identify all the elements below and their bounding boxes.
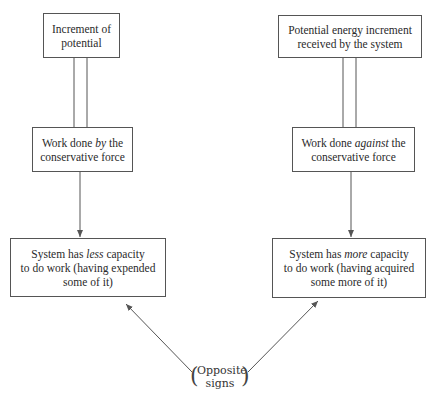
work-done-by-box: Work done by the conservative force [32, 127, 133, 172]
box-text-line: received by the system [297, 38, 402, 50]
close-paren: ) [241, 362, 250, 390]
box-text: System has [31, 248, 86, 260]
connectors-layer [0, 0, 432, 397]
box-text: Work done [42, 137, 95, 149]
opposite-signs-label: Opposite signs [197, 364, 243, 390]
box-text: the [106, 137, 123, 149]
emphasis-text: more [344, 248, 367, 260]
emphasis-text: less [86, 248, 103, 260]
box-text-line: conservative force [40, 151, 125, 163]
box-text-line: some more of it) [311, 276, 387, 288]
emphasis-text: by [95, 137, 106, 149]
box-text: capacity [367, 248, 408, 260]
more-capacity-box: System has more capacity to do work (hav… [272, 238, 426, 298]
increment-of-potential-box: Increment of potential [43, 13, 120, 58]
box-text-line: Increment of [52, 23, 111, 35]
label-line: signs [206, 377, 235, 390]
box-text-line: Potential energy increment [288, 24, 412, 36]
emphasis-text: against [355, 137, 389, 149]
right-diagonal-arrow [248, 301, 318, 372]
work-done-against-box: Work done against the conservative force [292, 127, 415, 172]
less-capacity-box: System has less capacity to do work (hav… [10, 238, 166, 297]
box-text-line: some of it) [63, 276, 113, 288]
box-text-line: to do work (having expended [21, 262, 156, 274]
box-text: System has [289, 248, 344, 260]
potential-energy-increment-box: Potential energy increment received by t… [278, 15, 422, 58]
box-text-line: to do work (having acquired [284, 262, 414, 274]
box-text: Work done [301, 137, 354, 149]
left-diagonal-arrow [126, 304, 192, 372]
box-text: capacity [104, 248, 145, 260]
label-line: Opposite [197, 364, 247, 377]
box-text-line: conservative force [311, 151, 396, 163]
box-text-line: potential [61, 37, 101, 49]
box-text: the [389, 137, 406, 149]
